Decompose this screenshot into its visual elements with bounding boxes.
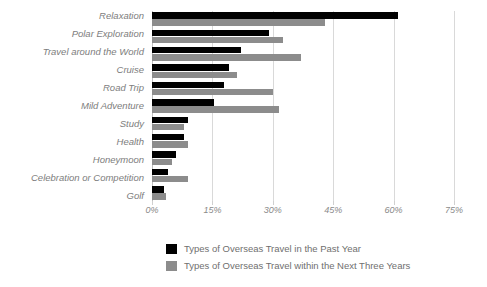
category-label: Polar Exploration [0, 29, 148, 39]
category-label: Road Trip [0, 83, 148, 93]
bar-group [152, 98, 454, 114]
x-tick-label: 15% [203, 205, 221, 215]
bar-past-year [152, 151, 176, 157]
x-tick-label: 45% [324, 205, 342, 215]
legend-label: Types of Overseas Travel in the Past Yea… [184, 243, 361, 254]
bar-past-year [152, 82, 224, 88]
bar-group [152, 150, 454, 166]
category-label: Relaxation [0, 11, 148, 21]
plot-canvas [152, 11, 454, 201]
category-label: Golf [0, 191, 148, 201]
category-label: Health [0, 137, 148, 147]
category-label: Celebration or Competition [0, 173, 148, 183]
x-tick-label: 60% [385, 205, 403, 215]
bar-group [152, 11, 454, 27]
bar-group [152, 133, 454, 149]
bar-next-three-years [152, 106, 279, 112]
legend-label: Types of Overseas Travel within the Next… [184, 260, 410, 271]
chart-legend: Types of Overseas Travel in the Past Yea… [0, 240, 487, 274]
bar-past-year [152, 134, 184, 140]
bar-group [152, 115, 454, 131]
category-axis-labels: RelaxationPolar ExplorationTravel around… [0, 11, 148, 201]
bar-past-year [152, 169, 168, 175]
x-axis-tick-labels: 0%15%30%45%60%75% [152, 205, 454, 219]
bar-group [152, 168, 454, 184]
bar-next-three-years [152, 141, 188, 147]
legend-swatch-icon [166, 261, 177, 271]
bar-past-year [152, 117, 188, 123]
legend-item[interactable]: Types of Overseas Travel in the Past Yea… [0, 240, 487, 257]
bar-past-year [152, 64, 229, 70]
bar-next-three-years [152, 193, 166, 199]
bar-next-three-years [152, 176, 188, 182]
bar-group [152, 46, 454, 62]
category-label: Mild Adventure [0, 101, 148, 111]
legend-swatch-icon [166, 244, 177, 254]
category-label: Honeymoon [0, 155, 148, 165]
bar-next-three-years [152, 54, 301, 60]
bar-group [152, 185, 454, 201]
category-label: Travel around the World [0, 47, 148, 57]
bar-chart: RelaxationPolar ExplorationTravel around… [0, 0, 487, 287]
bar-past-year [152, 12, 398, 18]
category-label: Study [0, 119, 148, 129]
legend-item[interactable]: Types of Overseas Travel within the Next… [0, 257, 487, 274]
bar-group [152, 28, 454, 44]
bar-next-three-years [152, 124, 184, 130]
gridline [454, 11, 455, 201]
x-tick-label: 75% [445, 205, 463, 215]
plot-area: RelaxationPolar ExplorationTravel around… [0, 0, 487, 232]
bar-past-year [152, 99, 214, 105]
x-tick-label: 30% [264, 205, 282, 215]
bar-next-three-years [152, 19, 325, 25]
bar-next-three-years [152, 89, 273, 95]
bar-group [152, 81, 454, 97]
bar-groups [152, 11, 454, 201]
bar-past-year [152, 47, 241, 53]
bar-next-three-years [152, 159, 172, 165]
bar-group [152, 63, 454, 79]
category-label: Cruise [0, 65, 148, 75]
bar-next-three-years [152, 37, 283, 43]
bar-past-year [152, 30, 269, 36]
x-tick-label: 0% [145, 205, 158, 215]
bar-past-year [152, 186, 164, 192]
bar-next-three-years [152, 72, 237, 78]
